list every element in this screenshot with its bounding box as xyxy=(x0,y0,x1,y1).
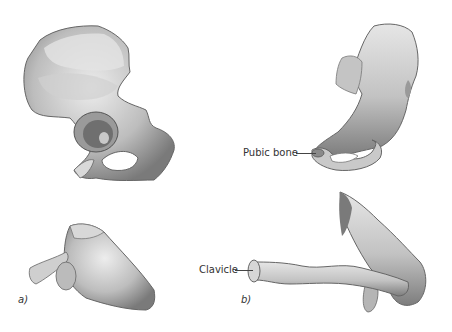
pubic-bone-label: Pubic bone xyxy=(243,147,298,159)
panel-label-a: a) xyxy=(18,294,28,305)
panel-label-b: b) xyxy=(241,294,251,305)
clavicle-leader-line xyxy=(235,270,253,271)
pubic-bone-leader-line xyxy=(296,153,316,154)
hip-bone-lateral xyxy=(24,26,174,181)
hip-bone-anterior xyxy=(312,24,418,171)
clavicle-and-scapula xyxy=(248,192,426,312)
anatomy-illustration xyxy=(0,0,452,332)
scapula xyxy=(29,224,154,310)
clavicle-label: Clavicle xyxy=(199,264,238,276)
